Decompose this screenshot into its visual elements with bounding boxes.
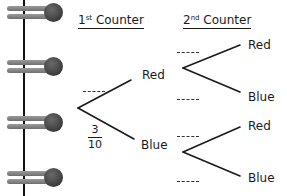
probability-fraction-first-blue: 3 10	[88, 124, 102, 151]
probability-blank-blue-blue[interactable]	[177, 181, 199, 182]
outcome-label-blue-blue: Blue	[248, 172, 275, 185]
branch-blue-red	[183, 127, 240, 152]
outcome-label-blue-red: Red	[248, 120, 271, 133]
outcome-label-first-red: Red	[142, 69, 165, 82]
branch-first-blue	[78, 108, 134, 139]
tree-branches	[0, 0, 287, 196]
probability-blank-first-red[interactable]	[83, 91, 105, 92]
probability-tree-worksheet: 1st Counter 2nd Counter Red 3 10 Blue Re…	[0, 0, 287, 196]
outcome-label-red-red: Red	[248, 39, 271, 52]
fraction-numerator: 3	[92, 124, 99, 136]
branch-red-red	[183, 45, 240, 68]
probability-blank-red-red[interactable]	[177, 52, 199, 53]
branch-blue-blue	[183, 152, 240, 176]
probability-blank-blue-red[interactable]	[177, 136, 199, 137]
outcome-label-first-blue: Blue	[141, 139, 168, 152]
branch-first-red	[78, 80, 131, 108]
outcome-label-red-blue: Blue	[248, 91, 275, 104]
probability-blank-red-blue[interactable]	[177, 99, 199, 100]
branch-red-blue	[183, 68, 240, 92]
fraction-denominator: 10	[88, 139, 102, 151]
